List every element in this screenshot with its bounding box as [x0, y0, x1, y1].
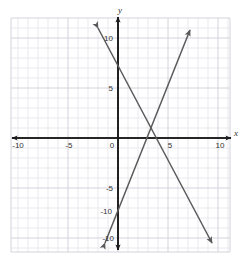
x-tick-label-10: 10	[216, 141, 225, 150]
y-tick-label--10: -10	[100, 207, 112, 216]
x-axis-label: x	[233, 128, 238, 138]
graph-background	[0, 0, 241, 258]
y-axis-label: y	[117, 5, 122, 15]
coordinate-graph: -10 -5 0 5 10 -10 -5 5 10 -10 x y	[0, 0, 241, 258]
origin-label: 0	[110, 141, 115, 150]
x-tick-label--5: -5	[65, 141, 73, 150]
graph-canvas: -10 -5 0 5 10 -10 -5 5 10 -10 x y	[0, 0, 241, 258]
y-tick-label--10-axis: -10	[102, 234, 114, 243]
y-tick-label-5: 5	[109, 84, 114, 93]
y-tick-label--5: -5	[106, 184, 114, 193]
y-tick-label-10: 10	[104, 34, 113, 43]
x-tick-label--10: -10	[12, 141, 24, 150]
x-tick-label-5: 5	[168, 141, 173, 150]
